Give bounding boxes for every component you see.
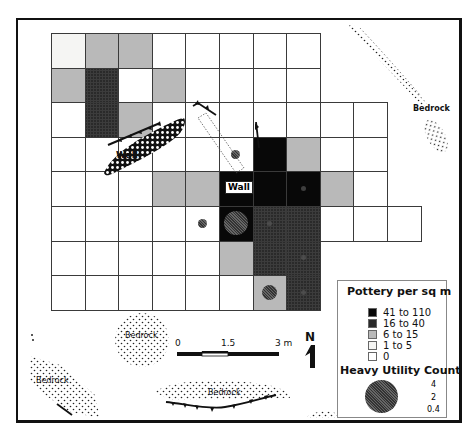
legend-class-label: 41 to 110	[383, 307, 431, 318]
label-bedrock-bottom: Bedrock	[208, 388, 241, 397]
dashed-trench-outline	[198, 113, 244, 173]
scale-label-3m: 3 m	[275, 338, 292, 348]
legend-utility-value-4: 4	[431, 380, 436, 389]
wall-line-east	[255, 122, 259, 148]
legend-class-label: 0	[383, 351, 389, 362]
scale-bar	[177, 351, 279, 356]
bedrock-bottom-center	[115, 313, 169, 367]
label-wall-center: Wall	[225, 181, 253, 194]
legend-pottery-class: 41 to 110	[368, 307, 431, 318]
north-label: N	[305, 330, 315, 344]
legend-utility-title: Heavy Utility Count	[340, 364, 461, 377]
wall-line-north	[193, 100, 216, 115]
legend-swatch	[368, 330, 377, 339]
legend-swatch	[368, 341, 377, 350]
legend-utility-circle	[365, 380, 398, 413]
legend-pottery-class: 1 to 5	[368, 340, 412, 351]
label-bedrock-top-right: Bedrock	[413, 104, 450, 113]
legend-class-label: 1 to 5	[383, 340, 412, 351]
label-wall-west: Wall	[116, 150, 138, 160]
wall-feature-west	[104, 118, 185, 175]
legend-pottery-class: 0	[368, 351, 389, 362]
legend-class-label: 16 to 40	[383, 318, 425, 329]
legend: Pottery per sq m 41 to 11016 to 406 to 1…	[337, 280, 447, 418]
legend-utility-value-2: 2	[431, 393, 436, 402]
legend-pottery-class: 16 to 40	[368, 318, 425, 329]
legend-swatch	[368, 319, 377, 328]
legend-swatch	[368, 352, 377, 361]
site-map: Wall Wall Bedrock Bedrock Bedrock Bedroc…	[0, 0, 476, 435]
scale-label-1-5: 1.5	[221, 338, 235, 348]
label-bedrock-bottom-center: Bedrock	[125, 331, 158, 340]
legend-utility-value-0-4: 0.4	[427, 405, 440, 414]
bedrock-bottom	[155, 380, 340, 418]
bedrock-top-right	[350, 25, 453, 156]
legend-swatch	[368, 308, 377, 317]
label-bedrock-bottom-left: Bedrock	[36, 376, 69, 385]
north-arrow-icon	[305, 345, 315, 368]
legend-class-label: 6 to 15	[383, 329, 418, 340]
legend-pottery-class: 6 to 15	[368, 329, 418, 340]
scale-label-0: 0	[175, 338, 181, 348]
legend-pottery-title: Pottery per sq m	[347, 285, 451, 298]
